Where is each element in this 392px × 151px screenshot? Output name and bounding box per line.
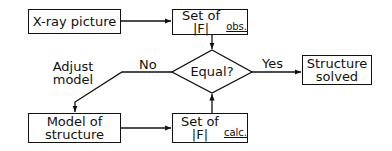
observed-f-box: Set of |F|obs. xyxy=(172,9,248,35)
observed-f-subscript: obs. xyxy=(226,20,247,33)
decision-label: Equal? xyxy=(187,65,237,78)
structure-solved-box: Structure solved xyxy=(302,55,372,85)
xray-picture-box: X-ray picture xyxy=(28,9,121,34)
yes-edge-label: Yes xyxy=(262,57,283,70)
calculated-f-box: Set of |F|calc. xyxy=(172,113,248,143)
structure-solved-line2: solved xyxy=(316,70,358,83)
calculated-f-label: Set of |F| xyxy=(176,115,224,141)
model-of-structure-box: Model of structure xyxy=(28,113,121,143)
calculated-f-subscript: calc. xyxy=(224,126,247,139)
adjust-model-label: Adjust model xyxy=(48,60,98,86)
observed-f-label: Set of |F| xyxy=(176,9,226,35)
no-edge-label: No xyxy=(139,58,157,71)
adjust-model-line2: model xyxy=(48,73,98,86)
model-line2: structure xyxy=(45,128,104,141)
xray-picture-label: X-ray picture xyxy=(33,15,117,28)
